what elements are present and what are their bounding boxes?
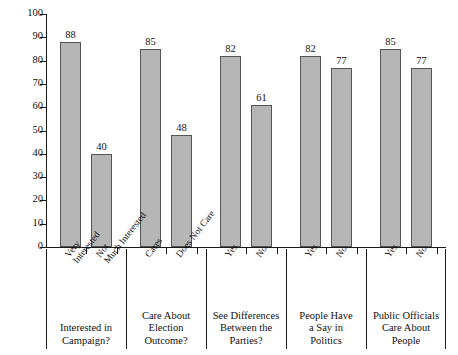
group-title-line: Campaign? [46, 335, 126, 348]
group-separator [126, 249, 127, 349]
bar-value-label: 82 [225, 43, 236, 54]
group-title: Interested inCampaign? [46, 322, 126, 347]
bar: 85 [380, 49, 401, 247]
group-title-line: Parties? [206, 335, 286, 348]
group-title: Care AboutElectionOutcome? [126, 310, 206, 348]
group-title-line: Between the [206, 322, 286, 335]
bar: 77 [331, 68, 352, 247]
group-title-line: People [366, 335, 446, 348]
bar: 61 [251, 105, 272, 247]
group-title-line: Interested in [46, 322, 126, 335]
group-separator [206, 249, 207, 349]
bar: 77 [411, 68, 432, 247]
y-axis-tick-label: 60 [33, 100, 44, 111]
group-title-line: Care About [366, 322, 446, 335]
bar-value-label: 85 [385, 36, 396, 47]
y-axis-tick-label: 10 [33, 217, 44, 228]
y-axis-tick-label: 0 [38, 240, 43, 251]
group-title-line: a Say in [286, 322, 366, 335]
y-axis-tick-label: 70 [33, 77, 44, 88]
y-axis-tick-label: 50 [33, 124, 44, 135]
group-title-line: People Have [286, 310, 366, 323]
group-title: Public OfficialsCare AboutPeople [366, 310, 446, 348]
group-title-line: Care About [126, 310, 206, 323]
bar: 82 [220, 56, 241, 247]
y-axis-tick-label: 40 [33, 147, 44, 158]
bar-value-label: 48 [176, 122, 187, 133]
bar-chart: Percent Reported Voting 0102030405060708… [0, 0, 458, 355]
plot-area: 0102030405060708090100 88408548826182778… [46, 14, 446, 248]
group-title: See DifferencesBetween theParties? [206, 310, 286, 348]
bar: 48 [171, 135, 192, 247]
group-separator [46, 249, 47, 349]
group-title-line: Outcome? [126, 335, 206, 348]
group-separator [366, 249, 367, 349]
group-title-line: Public Officials [366, 310, 446, 323]
y-axis-line [46, 14, 47, 248]
group-separator [286, 249, 287, 349]
bar-value-label: 40 [96, 141, 107, 152]
bar: 88 [60, 42, 81, 247]
group-title-line: See Differences [206, 310, 286, 323]
bar-value-label: 82 [305, 43, 316, 54]
bar-value-label: 88 [65, 29, 76, 40]
group-title-line: Politics [286, 335, 366, 348]
bar-value-label: 61 [256, 92, 267, 103]
y-axis-tick-label: 100 [27, 7, 43, 18]
group-titles-band: Interested inCampaign?Care AboutElection… [46, 249, 446, 349]
group-separator [445, 249, 446, 349]
y-axis-tick-label: 30 [33, 170, 44, 181]
y-axis-tick-label: 90 [33, 30, 44, 41]
bar-value-label: 77 [336, 55, 347, 66]
bar-value-label: 77 [416, 55, 427, 66]
group-title-line: Election [126, 322, 206, 335]
y-axis-tick-label: 20 [33, 193, 44, 204]
bar: 82 [300, 56, 321, 247]
y-axis-tick-label: 80 [33, 54, 44, 65]
group-title: People Havea Say inPolitics [286, 310, 366, 348]
bar-value-label: 85 [145, 36, 156, 47]
